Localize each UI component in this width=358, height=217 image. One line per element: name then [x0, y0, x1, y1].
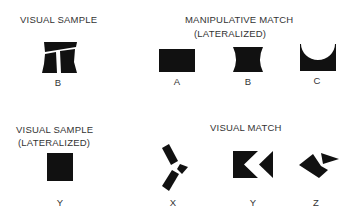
shape-label: A [167, 76, 187, 87]
panel-title-line2: (LATERALIZED) [18, 137, 90, 148]
shape-label: X [163, 197, 183, 208]
rotated-envelope-shape [299, 151, 341, 179]
panel-title: VISUAL MATCH [210, 122, 282, 133]
square-with-semicircle-cutout-shape [300, 44, 336, 71]
shape-label: B [238, 76, 258, 87]
shape-label: Y [50, 197, 70, 208]
panel-title: VISUAL SAMPLE [20, 14, 97, 25]
b-pedestal-split-shape [42, 42, 78, 74]
shape-label: Y [243, 197, 263, 208]
panel-title-line1: MANIPULATIVE MATCH [185, 14, 293, 25]
panel-title-line2: (LATERALIZED) [194, 28, 266, 39]
shape-label: B [48, 77, 68, 88]
square-shape [47, 153, 73, 181]
rectangle-shape [159, 49, 195, 72]
panel-title-line1: VISUAL SAMPLE [16, 124, 93, 135]
concave-sides-shape [233, 47, 263, 72]
scattered-fragments-shape [161, 144, 191, 192]
square-with-chevron-cutout-shape [233, 151, 274, 178]
shape-label: Z [306, 197, 326, 208]
shape-label: C [307, 75, 327, 86]
